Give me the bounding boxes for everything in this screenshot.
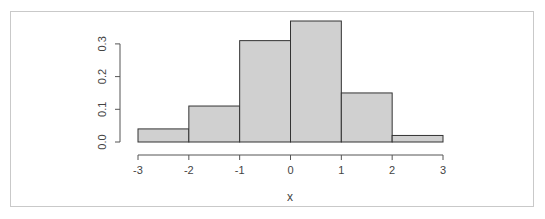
histogram-bar bbox=[189, 106, 240, 142]
x-tick-label: 3 bbox=[440, 164, 446, 176]
histogram-chart: 0.00.10.20.3 -3-2-10123 x bbox=[0, 0, 545, 219]
x-tick-label: -2 bbox=[184, 164, 194, 176]
x-tick-label: 1 bbox=[338, 164, 344, 176]
histogram-bar bbox=[240, 41, 291, 142]
histogram-bar bbox=[138, 129, 189, 142]
x-axis: -3-2-10123 bbox=[133, 155, 446, 176]
x-axis-label: x bbox=[287, 190, 293, 204]
x-tick-label: -3 bbox=[133, 164, 143, 176]
x-tick-label: 0 bbox=[287, 164, 293, 176]
histogram-bar bbox=[341, 93, 392, 142]
y-tick-label: 0.2 bbox=[96, 69, 108, 84]
y-axis: 0.00.10.20.3 bbox=[96, 36, 120, 149]
y-tick-label: 0.0 bbox=[96, 134, 108, 149]
histogram-bar bbox=[392, 135, 443, 142]
x-tick-label: 2 bbox=[389, 164, 395, 176]
y-tick-label: 0.3 bbox=[96, 36, 108, 51]
histogram-bars bbox=[138, 21, 443, 142]
x-tick-label: -1 bbox=[235, 164, 245, 176]
histogram-bar bbox=[291, 21, 342, 142]
y-tick-label: 0.1 bbox=[96, 102, 108, 117]
